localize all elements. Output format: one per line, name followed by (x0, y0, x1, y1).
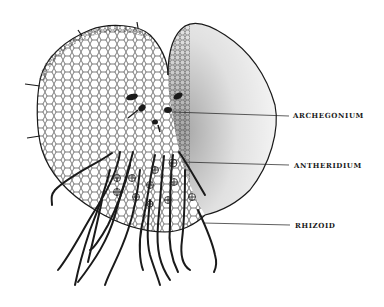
label-antheridium: ANTHERIDIUM (294, 161, 362, 170)
label-rhizoid: RHIZOID (295, 221, 335, 230)
label-archegonium: ARCHEGONIUM (293, 111, 364, 120)
prothallus-diagram (0, 0, 384, 307)
leader-rhizoid (203, 223, 290, 225)
